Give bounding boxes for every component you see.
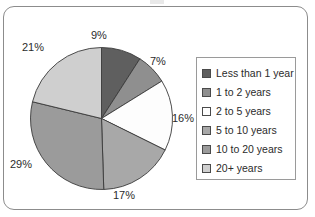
- legend-item-label: Less than 1 year: [216, 68, 294, 79]
- legend-item-label: 10 to 20 years: [216, 144, 283, 155]
- legend-swatch-icon: [202, 126, 211, 135]
- legend-swatch-icon: [202, 107, 211, 116]
- legend-item-10-to-20-years: 10 to 20 years: [202, 140, 295, 159]
- legend-item-1-to-2-years: 1 to 2 years: [202, 83, 295, 102]
- chart-legend: Less than 1 year 1 to 2 years 2 to 5 yea…: [196, 57, 296, 180]
- slice-value-label-6: 21%: [22, 42, 44, 53]
- legend-swatch-icon: [202, 69, 211, 78]
- legend-swatch-icon: [202, 88, 211, 97]
- legend-item-label: 1 to 2 years: [216, 87, 271, 98]
- legend-item-20-plus-years: 20+ years: [202, 159, 295, 178]
- slice-value-label-3: 16%: [172, 113, 194, 124]
- legend-swatch-icon: [202, 164, 211, 173]
- legend-item-2-to-5-years: 2 to 5 years: [202, 102, 295, 121]
- legend-item-5-to-10-years: 5 to 10 years: [202, 121, 295, 140]
- legend-item-less-than-1-year: Less than 1 year: [202, 64, 295, 83]
- legend-item-label: 2 to 5 years: [216, 106, 271, 117]
- legend-item-label: 20+ years: [216, 163, 262, 174]
- pie-chart-screenshot: 9% 7% 16% 17% 29% 21% Less than 1 year 1…: [0, 0, 315, 217]
- slice-value-label-5: 29%: [10, 159, 32, 170]
- legend-swatch-icon: [202, 145, 211, 154]
- slice-value-label-4: 17%: [113, 190, 135, 201]
- slice-value-label-2: 7%: [150, 56, 166, 67]
- pie-graphic: [30, 47, 173, 190]
- legend-item-label: 5 to 10 years: [216, 125, 277, 136]
- chart-area: 9% 7% 16% 17% 29% 21% Less than 1 year 1…: [0, 0, 315, 217]
- pie-svg: [30, 47, 173, 190]
- slice-value-label-1: 9%: [91, 30, 107, 41]
